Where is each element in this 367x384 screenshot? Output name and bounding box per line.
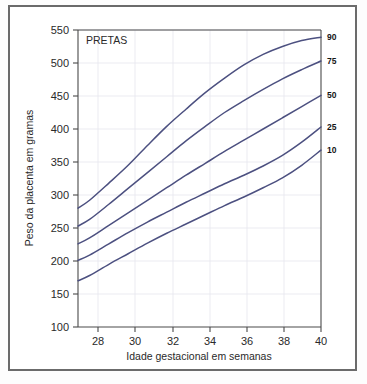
y-axis-tick-labels: 550 500 450 400 350 300 250 200 150 100 (51, 24, 69, 333)
placenta-weight-percentile-chart: 550 500 450 400 350 300 250 200 150 100 … (0, 0, 367, 384)
vertical-gridlines (98, 30, 284, 327)
percentile-label-90: 90 (327, 32, 337, 42)
x-tick-label: 32 (167, 335, 179, 347)
x-tick-label: 30 (129, 335, 141, 347)
y-tick-label: 450 (51, 90, 69, 102)
plot-annotation-pretas: PRETAS (86, 34, 127, 46)
y-axis-ticks (73, 30, 78, 327)
x-tick-label: 36 (241, 335, 253, 347)
percentile-curves (78, 37, 321, 281)
percentile-label-75: 75 (327, 56, 337, 66)
y-tick-label: 150 (51, 288, 69, 300)
percentile-label-25: 25 (327, 122, 337, 132)
percentile-labels: 9075502510 (327, 32, 337, 155)
percentile-label-50: 50 (327, 90, 337, 100)
y-tick-label: 100 (51, 321, 69, 333)
percentile-curve-50 (78, 95, 321, 244)
percentile-label-10: 10 (327, 145, 337, 155)
x-axis-title: Idade gestacional em semanas (126, 350, 271, 362)
y-tick-label: 550 (51, 24, 69, 36)
x-axis-tick-labels: 28 30 32 34 36 38 40 (92, 335, 327, 347)
y-tick-label: 250 (51, 222, 69, 234)
x-tick-label: 34 (204, 335, 216, 347)
horizontal-gridlines (78, 30, 321, 294)
x-tick-label: 28 (92, 335, 104, 347)
x-tick-label: 38 (278, 335, 290, 347)
y-tick-label: 200 (51, 255, 69, 267)
x-tick-label: 40 (315, 335, 327, 347)
y-axis-title: Peso da placenta em gramas (23, 110, 35, 247)
y-tick-label: 350 (51, 156, 69, 168)
y-tick-label: 500 (51, 57, 69, 69)
percentile-curve-75 (78, 61, 321, 226)
chart-page: 550 500 450 400 350 300 250 200 150 100 … (0, 0, 367, 384)
y-tick-label: 300 (51, 189, 69, 201)
x-axis-ticks (98, 327, 321, 332)
y-tick-label: 400 (51, 123, 69, 135)
percentile-curve-25 (78, 127, 321, 260)
